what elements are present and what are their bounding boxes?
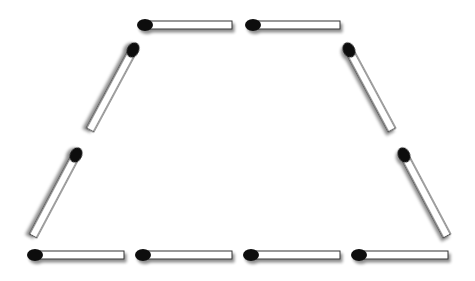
matchstick-body — [86, 50, 135, 132]
matchstick-body — [253, 251, 340, 259]
matchstick-upper-left[interactable] — [85, 40, 142, 133]
matchstick-trapezoid-diagram — [0, 0, 475, 281]
matchstick-body — [145, 251, 232, 259]
match-head-icon — [245, 19, 261, 31]
matchstick-body — [346, 50, 395, 132]
matchstick-body — [255, 21, 340, 29]
match-head-icon — [135, 249, 151, 261]
matches-layer — [27, 19, 452, 261]
match-head-icon — [27, 249, 43, 261]
matchstick-bottom-1[interactable] — [27, 249, 124, 261]
matchstick-bottom-4[interactable] — [351, 249, 448, 261]
matchstick-body — [361, 251, 448, 259]
matchstick-body — [401, 155, 450, 238]
matchstick-lower-right[interactable] — [395, 145, 452, 239]
matchstick-bottom-3[interactable] — [243, 249, 340, 261]
matchstick-lower-left[interactable] — [28, 145, 85, 239]
matchstick-upper-right[interactable] — [340, 40, 397, 133]
matchstick-canvas — [0, 0, 475, 281]
matchstick-body — [29, 155, 78, 238]
matchstick-top-1[interactable] — [137, 19, 232, 31]
match-head-icon — [351, 249, 367, 261]
match-head-icon — [243, 249, 259, 261]
match-head-icon — [137, 19, 153, 31]
matchstick-bottom-2[interactable] — [135, 249, 232, 261]
matchstick-top-2[interactable] — [245, 19, 340, 31]
matchstick-body — [147, 21, 232, 29]
matchstick-body — [37, 251, 124, 259]
